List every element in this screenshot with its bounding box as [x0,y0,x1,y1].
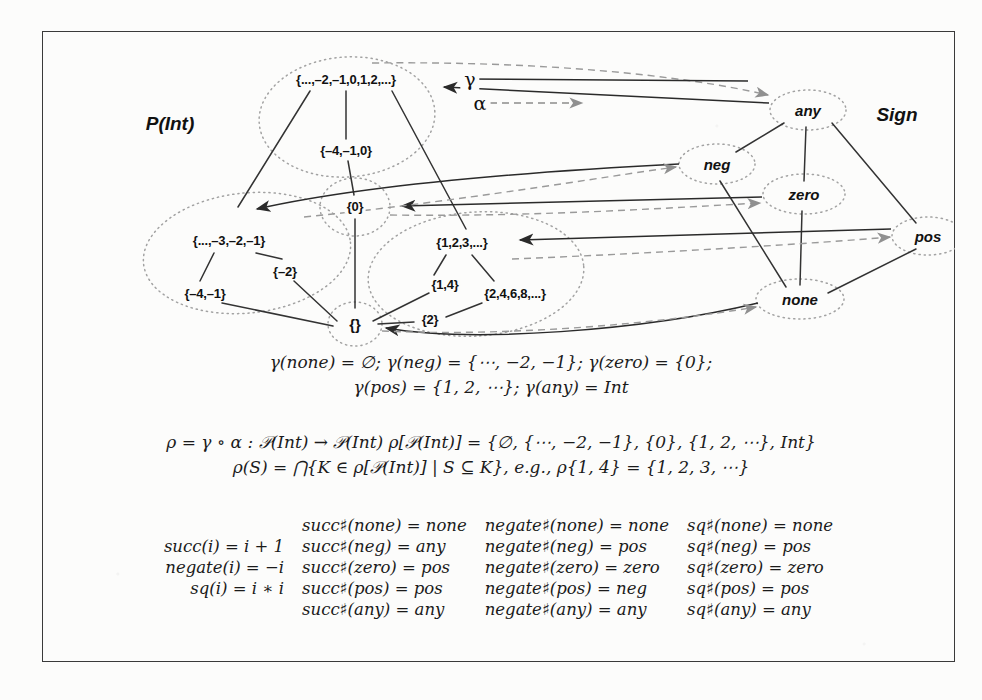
edge-any-pos [832,123,916,223]
cell-succ: succ♯(any) = any [293,599,476,620]
cell-concrete: negate(i) = −i [155,557,293,578]
cluster-neg [137,182,356,323]
rho-line-2: ρ(S) = ⋂{K ∈ ρ[𝒫(Int)] | S ⊆ K}, e.g., ρ… [0,455,982,480]
gamma-pos-to-posints [520,229,891,240]
edge-two-empty [378,322,414,324]
node-neg: neg [701,156,734,173]
cell-negate: negate♯(zero) = zero [476,557,678,578]
node-int: {...,–2,–1,0,1,2,...} [294,72,398,87]
edge-any-zero [804,127,806,181]
cell-sq: sq♯(zero) = zero [678,557,842,578]
edge-any-neg [736,123,784,152]
cell-negate: negate♯(neg) = pos [476,536,678,557]
edge-negints-m2 [256,253,282,259]
cell-sq: sq♯(pos) = pos [678,578,842,599]
edge-negints-m4m1 [200,253,214,281]
node-posints: {1,2,3,...} [434,235,489,250]
concrete-domain-title: P(Int) [146,113,195,135]
gamma-zero-to-zeroset [402,197,762,206]
edge-int-posints [392,91,466,229]
cell-succ: succ♯(zero) = pos [293,557,476,578]
edge-posints-evens [472,255,494,281]
cell-sq: sq♯(neg) = pos [678,536,842,557]
edge-m2-empty [294,281,337,321]
node-negints: {...,–3,–2,–1} [191,233,267,248]
table-row: sq(i) = i ∗ i succ♯(pos) = pos negate♯(p… [155,578,842,599]
abstract-domain-title: Sign [876,104,917,126]
cell-concrete: sq(i) = i ∗ i [155,578,293,599]
alpha-int-to-any [372,63,768,95]
edge-m4m1z-zero [348,161,354,195]
table-row: succ♯(none) = none negate♯(none) = none … [155,515,842,536]
node-evens: {2,4,6,8,...} [482,286,548,301]
rho-line-1: ρ = γ ∘ α : 𝒫(Int) → 𝒫(Int) ρ[𝒫(Int)] = … [0,430,982,455]
cell-sq: sq♯(none) = none [678,515,842,536]
gamma-none-to-empty [386,303,758,335]
gamma-line-1: γ(none) = ∅; γ(neg) = {⋯, −2, −1}; γ(zer… [0,350,982,375]
cell-negate: negate♯(none) = none [476,515,678,536]
node-zero: zero [786,186,823,203]
cell-negate: negate♯(any) = any [476,599,678,620]
legend-gamma-line [467,79,748,81]
cell-succ: succ♯(pos) = pos [293,578,476,599]
cell-concrete [155,515,293,536]
alpha-symbol: α [470,92,491,114]
gamma-line-2: γ(pos) = {1, 2, ⋯}; γ(any) = Int [0,375,982,400]
node-onefour: {1,4} [429,277,460,292]
abstract-semantics-table: succ♯(none) = none negate♯(none) = none … [155,515,842,620]
node-m4m1z: {–4,–1,0} [318,143,374,158]
node-empty: {} [347,316,362,333]
gamma-equations-block: γ(none) = ∅; γ(neg) = {⋯, −2, −1}; γ(zer… [0,350,982,399]
node-pos: pos [912,228,945,245]
cell-succ: succ♯(neg) = any [293,536,476,557]
cell-concrete [155,599,293,620]
node-two: {2} [420,312,441,327]
function-definition-table: succ♯(none) = none negate♯(none) = none … [42,515,955,662]
node-zeroset: {0} [345,199,366,214]
edge-zero-none [800,211,802,285]
figure-page: {...,–2,–1,0,1,2,...} {–4,–1,0} {...,–3,… [0,0,982,700]
node-none: none [779,291,821,308]
cell-concrete: succ(i) = i + 1 [155,536,293,557]
table-row: succ♯(any) = any negate♯(any) = any sq♯(… [155,599,842,620]
edge-posints-onefour [434,255,446,275]
edge-int-negints [238,91,310,207]
gamma-any-to-int [444,87,769,103]
table-row: negate(i) = −i succ♯(zero) = pos negate♯… [155,557,842,578]
rho-equations-block: ρ = γ ∘ α : 𝒫(Int) → 𝒫(Int) ρ[𝒫(Int)] = … [0,430,982,479]
alpha-posints-to-pos [512,237,890,259]
node-m2: {–2} [271,264,299,279]
edge-pos-none [828,249,916,293]
gamma-symbol: γ [460,68,479,90]
node-m4m1: {–4,–1} [182,286,227,301]
edge-evens-two [446,303,482,317]
cell-succ: succ♯(none) = none [293,515,476,536]
cell-negate: negate♯(pos) = neg [476,578,678,599]
edge-m4m1-empty [222,303,333,326]
abstract-order-edges [720,123,916,293]
node-any: any [792,102,824,119]
table-row: succ(i) = i + 1 succ♯(neg) = any negate♯… [155,536,842,557]
cell-sq: sq♯(any) = any [678,599,842,620]
